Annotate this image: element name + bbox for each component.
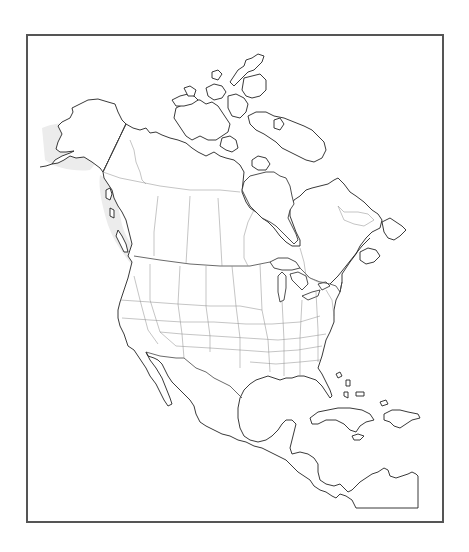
cuba <box>310 408 374 432</box>
bahamas-1 <box>336 372 342 378</box>
bahamas-4 <box>344 392 348 398</box>
bahamas-2 <box>346 380 350 386</box>
north-america-outline-map <box>0 0 469 552</box>
nova-scotia <box>360 248 380 264</box>
bahamas-3 <box>356 392 364 396</box>
puerto-rico <box>380 400 388 406</box>
jamaica <box>352 434 364 440</box>
hispaniola <box>384 410 420 428</box>
newfoundland <box>382 218 406 240</box>
